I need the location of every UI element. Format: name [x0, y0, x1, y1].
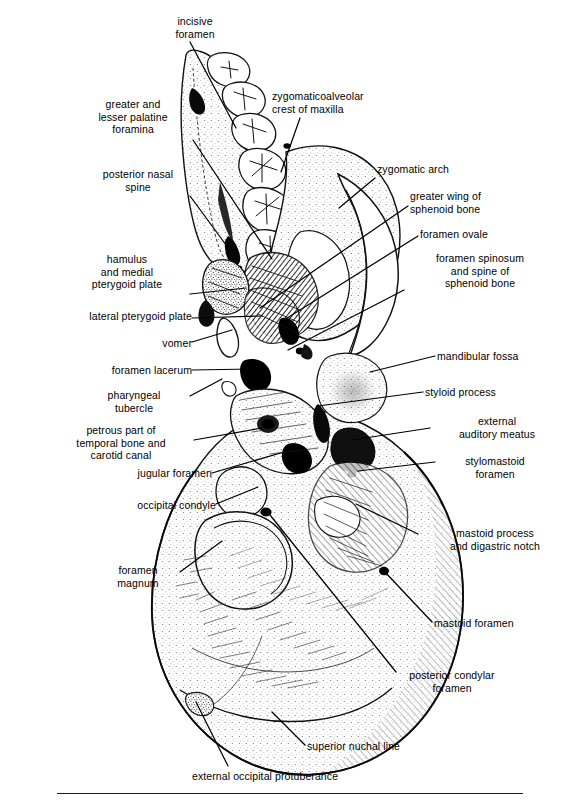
label-external-occipital-protub: external occipital protuberance	[192, 770, 418, 783]
label-mandibular-fossa: mandibular fossa	[437, 350, 569, 363]
label-hamulus-medial-pterygoid: hamulus and medial pterygoid plate	[66, 253, 188, 291]
ll-mandibular-fossa	[370, 356, 435, 372]
label-mastoid-process-digastric: mastoid process and digastric notch	[420, 527, 570, 552]
label-greater-lesser-palatine: greater and lesser palatine foramina	[76, 98, 190, 136]
label-superior-nuchal-line: superior nuchal line	[307, 740, 455, 753]
bottom-divider-rule	[57, 793, 523, 794]
label-petrous-temporal-carotid: petrous part of temporal bone and caroti…	[48, 424, 194, 462]
label-lateral-pterygoid-plate: lateral pterygoid plate	[14, 310, 192, 323]
occipital-condyle-left	[216, 467, 267, 517]
vomer	[217, 318, 239, 357]
label-foramen-spinosum-spine: foramen spinosum and spine of sphenoid b…	[407, 252, 553, 290]
label-zygomatic-arch: zygomatic arch	[377, 163, 497, 176]
label-jugular-foramen: jugular foramen	[88, 467, 212, 480]
label-greater-wing-sphenoid: greater wing of sphenoid bone	[410, 190, 532, 215]
label-posterior-nasal-spine: posterior nasal spine	[82, 168, 194, 193]
label-stylomastoid-foramen: stylomastoid foramen	[437, 455, 553, 480]
label-occipital-condyle: occipital condyle	[84, 499, 216, 512]
pharyngeal-tubercle	[222, 381, 236, 396]
label-external-auditory-meatus: external auditory meatus	[433, 415, 561, 440]
label-foramen-ovale: foramen ovale	[420, 228, 536, 241]
label-incisive-foramen: incisive foramen	[152, 15, 238, 40]
figure-page: incisive foramengreater and lesser palat…	[0, 0, 573, 810]
label-posterior-condylar-foramen: posterior condylar foramen	[385, 669, 519, 694]
label-pharyngeal-tubercle: pharyngeal tubercle	[78, 389, 190, 414]
label-zygomaticoalveolar-crest: zygomaticoalveolar crest of maxilla	[272, 90, 414, 115]
skull-body	[152, 50, 463, 774]
ll-pharyngeal-tubercle	[190, 379, 222, 396]
carotid-canal-inner	[262, 419, 275, 429]
label-vomer: vomer	[110, 337, 192, 350]
label-foramen-lacerum: foramen lacerum	[58, 364, 192, 377]
spine-of-sphenoid	[301, 344, 313, 360]
label-styloid-process: styloid process	[425, 386, 547, 399]
foramen-lacerum	[240, 359, 271, 391]
label-foramen-magnum: foramen magnum	[96, 564, 180, 589]
label-mastoid-foramen: mastoid foramen	[434, 617, 566, 630]
